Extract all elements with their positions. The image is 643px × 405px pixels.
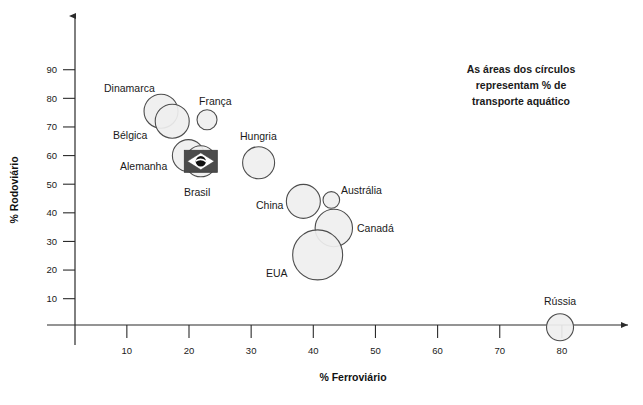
y-tick-label: 40 bbox=[46, 207, 57, 218]
note-line-1: As áreas dos círculos bbox=[467, 63, 576, 75]
y-tick-label: 70 bbox=[46, 121, 57, 132]
size-legend-note: As áreas dos círculos representam % de t… bbox=[467, 63, 576, 107]
bubbles bbox=[144, 94, 574, 341]
y-axis-ticks: 102030405060708090 bbox=[46, 64, 75, 304]
bubble-china[interactable] bbox=[286, 184, 320, 218]
y-tick-label: 30 bbox=[46, 236, 57, 247]
bubble-belgica[interactable] bbox=[155, 104, 189, 138]
x-tick-label: 20 bbox=[184, 345, 195, 356]
x-axis-ticks: 1020304050607080 bbox=[122, 325, 568, 356]
label-dinamarca: Dinamarca bbox=[104, 82, 155, 94]
y-tick-label: 90 bbox=[46, 64, 57, 75]
note-line-3: transporte aquático bbox=[472, 95, 570, 107]
x-tick-label: 50 bbox=[370, 345, 381, 356]
label-eua: EUA bbox=[266, 267, 288, 279]
label-canada: Canadá bbox=[357, 222, 394, 234]
note-line-2: representam % de bbox=[476, 79, 567, 91]
label-australia: Austrália bbox=[341, 184, 382, 196]
bubble-franca[interactable] bbox=[197, 110, 217, 130]
bubble-hungria[interactable] bbox=[243, 147, 275, 179]
y-tick-label: 50 bbox=[46, 179, 57, 190]
bubble-eua[interactable] bbox=[293, 230, 343, 280]
bubble-chart: 102030405060708090 1020304050607080 Dina… bbox=[0, 0, 643, 405]
x-tick-label: 80 bbox=[557, 345, 568, 356]
brazil-flag-icon bbox=[184, 150, 217, 172]
bubble-australia[interactable] bbox=[323, 192, 340, 209]
label-hungria: Hungria bbox=[240, 130, 277, 142]
bubble-russia[interactable] bbox=[547, 314, 574, 341]
x-tick-label: 40 bbox=[308, 345, 319, 356]
label-brasil: Brasil bbox=[184, 186, 210, 198]
y-axis-title: % Rodoviário bbox=[8, 156, 20, 223]
y-tick-label: 60 bbox=[46, 150, 57, 161]
x-axis-title: % Ferroviário bbox=[319, 371, 386, 383]
x-tick-label: 10 bbox=[122, 345, 133, 356]
chart-canvas: 102030405060708090 1020304050607080 Dina… bbox=[0, 0, 643, 405]
label-russia: Rússia bbox=[544, 295, 576, 307]
label-franca: França bbox=[199, 95, 232, 107]
y-tick-label: 10 bbox=[46, 293, 57, 304]
x-tick-label: 30 bbox=[246, 345, 257, 356]
label-belgica: Bélgica bbox=[113, 129, 148, 141]
y-tick-label: 20 bbox=[46, 264, 57, 275]
y-tick-label: 80 bbox=[46, 93, 57, 104]
label-china: China bbox=[256, 199, 284, 211]
x-tick-label: 60 bbox=[432, 345, 443, 356]
x-tick-label: 70 bbox=[494, 345, 505, 356]
label-alemanha: Alemanha bbox=[120, 160, 167, 172]
